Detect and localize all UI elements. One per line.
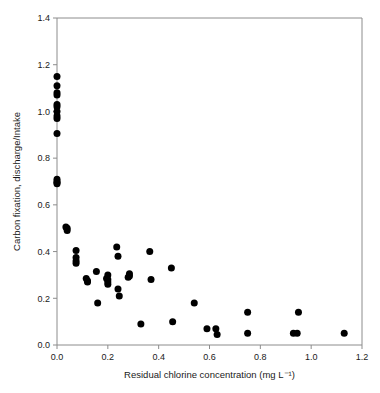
- data-point: [104, 281, 111, 288]
- data-point: [244, 330, 251, 337]
- y-tick-label: 1.2: [37, 60, 50, 70]
- data-point: [54, 115, 61, 122]
- data-point: [84, 278, 91, 285]
- data-point: [54, 92, 61, 99]
- scatter-plot-figure: 0.00.20.40.60.81.01.21.4 0.00.20.40.60.8…: [0, 0, 380, 393]
- y-tick-label: 0.8: [37, 153, 50, 163]
- data-point: [115, 253, 122, 260]
- x-tick-label: 1.0: [305, 352, 318, 362]
- y-tick-label: 0.0: [37, 340, 50, 350]
- x-tick-label: 0.6: [203, 352, 216, 362]
- data-point: [146, 248, 153, 255]
- data-point: [54, 82, 61, 89]
- x-tick-label: 0.8: [254, 352, 267, 362]
- data-point: [64, 227, 71, 234]
- x-axis-title: Residual chlorine concentration (mg L⁻¹): [124, 369, 295, 380]
- data-point: [137, 320, 144, 327]
- data-point: [54, 73, 61, 80]
- data-point: [244, 309, 251, 316]
- y-tick-label: 0.4: [37, 247, 50, 257]
- x-tick-label: 0.4: [152, 352, 165, 362]
- data-point: [54, 130, 61, 137]
- x-tick-label: 1.2: [356, 352, 369, 362]
- data-point: [341, 330, 348, 337]
- y-tick-label: 1.0: [37, 107, 50, 117]
- y-tick-label: 0.2: [37, 294, 50, 304]
- data-points-layer: [54, 73, 348, 338]
- x-tick-label: 0.0: [51, 352, 64, 362]
- data-point: [295, 309, 302, 316]
- data-point: [113, 243, 120, 250]
- data-point: [54, 180, 61, 187]
- data-point: [73, 247, 80, 254]
- data-point: [212, 325, 219, 332]
- chart-canvas: 0.00.20.40.60.81.01.21.4 0.00.20.40.60.8…: [0, 0, 380, 393]
- data-point: [73, 260, 80, 267]
- data-point: [214, 331, 221, 338]
- data-point: [93, 268, 100, 275]
- data-point: [191, 299, 198, 306]
- data-point: [203, 325, 210, 332]
- data-point: [148, 276, 155, 283]
- plot-frame: [57, 18, 362, 345]
- x-axis-ticks: 0.00.20.40.60.81.01.2: [51, 345, 369, 362]
- data-point: [169, 318, 176, 325]
- y-tick-label: 1.4: [37, 13, 50, 23]
- data-point: [116, 292, 123, 299]
- data-point: [168, 264, 175, 271]
- data-point: [115, 285, 122, 292]
- data-point: [94, 299, 101, 306]
- y-axis-title: Carbon fixation, discharge/Intake: [11, 112, 22, 251]
- data-point: [126, 273, 133, 280]
- x-tick-label: 0.2: [102, 352, 115, 362]
- data-point: [294, 330, 301, 337]
- y-tick-label: 0.6: [37, 200, 50, 210]
